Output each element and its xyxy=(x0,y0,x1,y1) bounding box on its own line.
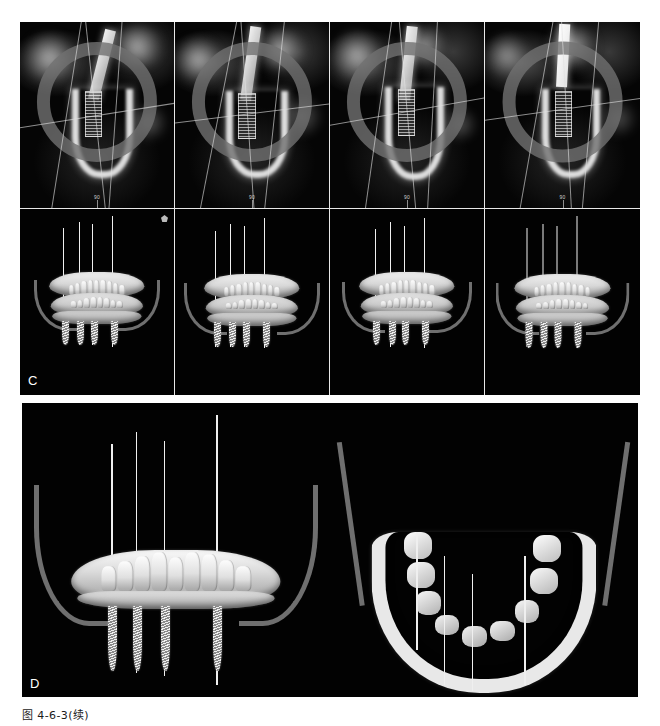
3d-render-anterior xyxy=(22,403,330,697)
3d-render-4 xyxy=(485,209,640,395)
figure-container: 90 90 xyxy=(0,0,660,726)
3d-frontal-view-3[interactable] xyxy=(330,209,485,395)
panel-c: 90 90 xyxy=(20,22,640,395)
3d-frontal-view-1[interactable] xyxy=(20,209,175,395)
scale-tick-2 xyxy=(252,200,253,208)
reference-ring-3 xyxy=(347,42,467,162)
cbct-cross-section-3[interactable]: 90 xyxy=(330,22,485,209)
cbct-cross-section-2[interactable]: 90 xyxy=(175,22,330,209)
cbct-image-3: 90 xyxy=(330,22,484,208)
scale-tick-4 xyxy=(563,200,564,208)
cbct-cross-section-1[interactable]: 90 xyxy=(20,22,175,209)
panel-d-grid xyxy=(22,403,638,697)
panel-d: D xyxy=(22,403,638,697)
cbct-cross-section-4[interactable]: 90 xyxy=(485,22,640,209)
3d-render-1 xyxy=(20,209,174,395)
scale-tick-1 xyxy=(97,200,98,208)
cbct-image-4: 90 xyxy=(485,22,640,208)
scale-tick-3 xyxy=(407,200,408,208)
3d-anterior-view[interactable] xyxy=(22,403,330,697)
3d-frontal-view-2[interactable] xyxy=(175,209,330,395)
3d-occlusal-view[interactable] xyxy=(330,403,638,697)
panel-label-c: C xyxy=(28,373,38,388)
3d-render-occlusal xyxy=(330,403,638,697)
angle-label-3: 90 xyxy=(404,194,410,200)
figure-caption: 图 4-6-3(续) xyxy=(22,706,89,722)
angle-label-2: 90 xyxy=(249,194,255,200)
mandible-arch-occlusal xyxy=(371,532,596,693)
3d-render-2 xyxy=(175,209,329,395)
panel-c-grid: 90 90 xyxy=(20,22,640,395)
cbct-image-2: 90 xyxy=(175,22,329,208)
3d-render-3 xyxy=(330,209,484,395)
panel-label-d: D xyxy=(30,676,40,691)
cbct-image-1: 90 xyxy=(20,22,174,208)
angle-label-4: 90 xyxy=(559,194,565,200)
angle-label-1: 90 xyxy=(94,194,100,200)
3d-frontal-view-4[interactable] xyxy=(485,209,640,395)
reference-ring-1 xyxy=(37,42,157,162)
reference-ring-2 xyxy=(192,42,312,162)
